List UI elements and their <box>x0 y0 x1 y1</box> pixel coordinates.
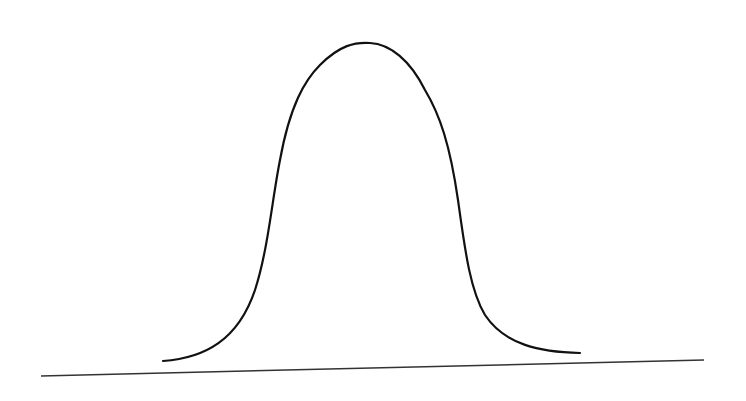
bell-curve <box>163 43 580 361</box>
baseline <box>41 360 704 376</box>
bell-curve-diagram <box>0 0 746 401</box>
